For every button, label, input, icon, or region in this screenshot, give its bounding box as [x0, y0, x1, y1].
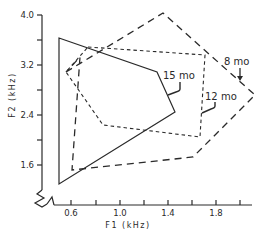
- annotation-8mo: 8 mo: [224, 56, 249, 67]
- chart-svg: 4.0 3.2 2.4 1.6 0.6 1.0 1.4 1.8 F1 (kHz)…: [0, 0, 264, 234]
- annotation-8mo-arrowhead-icon: [237, 76, 243, 81]
- y-axis: [35, 15, 54, 207]
- y-tick-label: 3.2: [20, 60, 34, 70]
- y-tick-label: 4.0: [20, 10, 34, 20]
- formant-chart: 4.0 3.2 2.4 1.6 0.6 1.0 1.4 1.8 F1 (kHz)…: [0, 0, 264, 234]
- annotation-15mo-arrow-icon: [168, 82, 180, 95]
- series-12mo-polygon: [66, 47, 205, 137]
- x-axis-title: F1 (kHz): [105, 221, 150, 230]
- axis-break-icon: [35, 190, 47, 207]
- y-tick-label: 1.6: [20, 160, 34, 170]
- annotation-12mo: 12 mo: [205, 91, 237, 102]
- y-axis-title: F2 (kHz): [8, 72, 17, 117]
- x-axis: [54, 200, 252, 205]
- x-tick-label: 1.8: [209, 208, 223, 218]
- annotation-12mo-arrow-icon: [202, 102, 215, 113]
- y-tick-label: 2.4: [20, 110, 34, 120]
- x-tick-label: 0.6: [64, 208, 78, 218]
- x-tick-label: 1.0: [113, 208, 127, 218]
- annotation-15mo: 15 mo: [163, 70, 195, 81]
- x-tick-label: 1.4: [161, 208, 175, 218]
